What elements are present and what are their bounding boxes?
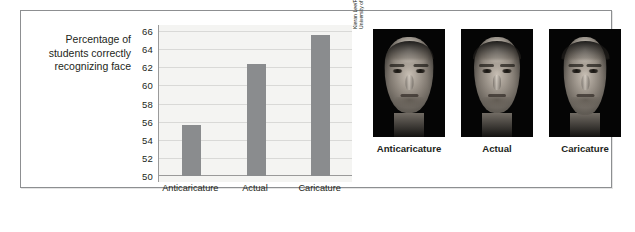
neck-shape xyxy=(482,113,512,137)
y-axis-tick-label: 54 xyxy=(142,134,153,145)
bar-anticaricature xyxy=(182,125,201,176)
y-axis-tick-label: 60 xyxy=(142,80,153,91)
eye-left-shape xyxy=(482,69,492,73)
eyebrow-right-shape xyxy=(500,64,515,67)
figure-frame: Percentage of students correctly recogni… xyxy=(20,10,612,188)
page-corner-decoration xyxy=(588,11,611,25)
photo-credit-text: Kieran Lee/Facelab, Department of Psycho… xyxy=(352,0,364,29)
plot-area xyxy=(158,25,352,182)
face-stimuli-row: Anticaricature Actual xyxy=(373,29,621,181)
face-caption-anticaricature: Anticaricature xyxy=(373,143,445,154)
bar-actual xyxy=(247,64,266,176)
hair-shape xyxy=(385,41,433,61)
neck-shape xyxy=(570,113,600,137)
chin-shape xyxy=(394,97,424,112)
face-caption-actual: Actual xyxy=(461,143,533,154)
eyebrow-left-shape xyxy=(569,64,584,67)
neck-shape xyxy=(394,113,424,137)
x-axis-tick-labels: AnticaricatureActualCaricature xyxy=(158,183,352,199)
nose-shape xyxy=(493,75,501,90)
y-axis-tick-label: 58 xyxy=(142,98,153,109)
face-cell-actual: Actual xyxy=(461,29,533,137)
eyebrow-left-shape xyxy=(390,64,405,67)
face-caption-caricature: Caricature xyxy=(549,143,621,154)
eye-right-shape xyxy=(502,69,512,73)
y-axis-tick-label: 66 xyxy=(142,26,153,37)
hair-shape xyxy=(561,41,609,61)
eyebrow-left-shape xyxy=(479,64,494,67)
head-shape xyxy=(474,37,520,113)
eyebrow-right-shape xyxy=(587,64,602,67)
chin-shape xyxy=(570,97,600,112)
y-axis-tick-label: 64 xyxy=(142,44,153,55)
hair-shape xyxy=(473,41,521,61)
nose-shape xyxy=(405,75,413,90)
eye-right-shape xyxy=(589,69,599,73)
face-cell-anticaricature: Anticaricature xyxy=(373,29,445,137)
y-axis-tick-label: 56 xyxy=(142,116,153,127)
eye-left-shape xyxy=(393,69,403,73)
nose-shape xyxy=(581,75,589,90)
eye-right-shape xyxy=(416,69,426,73)
y-axis-caption: Percentage of students correctly recogni… xyxy=(27,33,131,74)
head-shape xyxy=(385,37,434,113)
bar-chart: 666462605856545250 AnticaricatureActualC… xyxy=(133,23,353,191)
face-photo-anticaricature xyxy=(373,29,445,137)
head-shape xyxy=(564,37,607,115)
plot-inner xyxy=(159,31,352,176)
y-axis-tick-label: 62 xyxy=(142,62,153,73)
eye-left-shape xyxy=(572,69,582,73)
x-axis-tick-label: Anticaricature xyxy=(162,183,218,193)
face-photo-caricature xyxy=(549,29,621,137)
x-axis-tick-label: Actual xyxy=(242,183,268,193)
chin-shape xyxy=(482,97,512,112)
face-cell-caricature: Caricature xyxy=(549,29,621,137)
y-axis-tick-labels: 666462605856545250 xyxy=(133,31,153,176)
face-photo-actual xyxy=(461,29,533,137)
y-axis-tick-label: 52 xyxy=(142,152,153,163)
bar-caricature xyxy=(311,35,330,176)
gridline xyxy=(159,31,352,32)
y-axis-tick-label: 50 xyxy=(142,171,153,182)
eyebrow-right-shape xyxy=(414,64,429,67)
x-axis-tick-label: Caricature xyxy=(298,183,340,193)
